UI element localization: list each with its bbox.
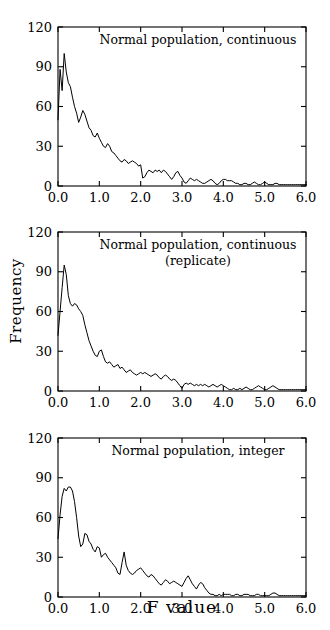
x-tick-label: 6.0 [296, 190, 317, 205]
y-tick-label: 60 [35, 304, 52, 319]
data-series-line [58, 265, 306, 390]
y-tick-label: 30 [35, 139, 52, 154]
x-tick-label: 4.0 [213, 395, 234, 410]
chart-plot-area: 0.01.02.03.04.05.06.00306090120Normal po… [0, 0, 330, 205]
x-tick-label: 3.0 [172, 395, 193, 410]
panel-title: Normal population, integer [111, 443, 284, 458]
y-tick-label: 30 [35, 550, 52, 565]
panel-title: Normal population, continuous [100, 32, 297, 47]
y-tick-label: 30 [35, 344, 52, 359]
y-tick-label: 60 [35, 99, 52, 114]
data-series-line [58, 54, 306, 185]
y-tick-label: 120 [27, 225, 52, 240]
panel-subtitle: (replicate) [165, 253, 231, 268]
y-tick-label: 0 [44, 179, 52, 194]
x-tick-label: 5.0 [254, 395, 275, 410]
panel-title: Normal population, continuous [100, 237, 297, 252]
plot-frame [58, 438, 306, 597]
chart-panel-3: 0.01.02.03.04.05.06.00306090120Normal po… [0, 411, 330, 616]
x-tick-label: 5.0 [254, 190, 275, 205]
y-tick-label: 60 [35, 510, 52, 525]
y-tick-label: 120 [27, 20, 52, 35]
x-tick-label: 1.0 [89, 190, 110, 205]
x-tick-label: 3.0 [172, 190, 193, 205]
y-tick-label: 90 [35, 470, 52, 485]
chart-plot-area: 0.01.02.03.04.05.06.00306090120Normal po… [0, 205, 330, 410]
x-tick-label: 2.0 [130, 395, 151, 410]
data-series-line [58, 487, 306, 596]
y-tick-label: 90 [35, 264, 52, 279]
y-axis-label: Frequency [7, 241, 25, 361]
y-tick-label: 0 [44, 384, 52, 399]
x-axis-label: F value [58, 597, 306, 617]
chart-plot-area: 0.01.02.03.04.05.06.00306090120Normal po… [0, 411, 330, 616]
x-tick-label: 1.0 [89, 395, 110, 410]
chart-panel-1: 0.01.02.03.04.05.06.00306090120Normal po… [0, 0, 330, 205]
x-tick-label: 2.0 [130, 190, 151, 205]
figure-panel-stack: 0.01.02.03.04.05.06.00306090120Normal po… [0, 0, 330, 630]
y-tick-label: 0 [44, 590, 52, 605]
y-tick-label: 90 [35, 59, 52, 74]
y-tick-label: 120 [27, 431, 52, 446]
x-tick-label: 6.0 [296, 395, 317, 410]
plot-frame [58, 27, 306, 186]
x-tick-label: 4.0 [213, 190, 234, 205]
chart-panel-2: 0.01.02.03.04.05.06.00306090120Normal po… [0, 205, 330, 410]
